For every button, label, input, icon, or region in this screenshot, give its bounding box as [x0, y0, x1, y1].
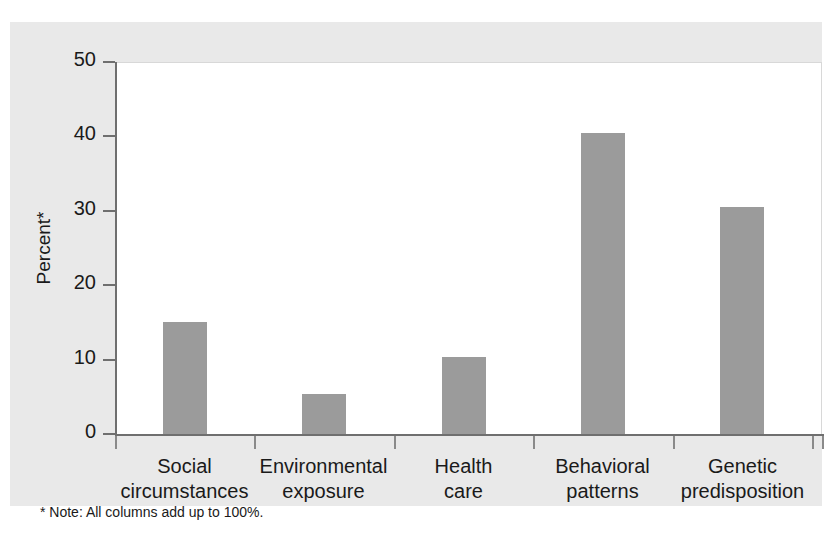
- category-label-line: Behavioral: [533, 454, 672, 479]
- x-axis-end-tick: [822, 436, 824, 449]
- x-axis-separator-tick: [812, 436, 814, 449]
- y-axis-tick-mark: [103, 433, 115, 435]
- category-label-line: exposure: [254, 479, 393, 504]
- category-label-line: predisposition: [673, 479, 812, 504]
- x-axis-category-label: Healthcare: [394, 454, 533, 504]
- category-label-line: Social: [115, 454, 254, 479]
- category-label-line: care: [394, 479, 533, 504]
- category-label-line: Health: [394, 454, 533, 479]
- x-axis-category-label: Behavioralpatterns: [533, 454, 672, 504]
- y-axis-tick-mark: [103, 284, 115, 286]
- x-axis-separator-tick: [394, 436, 396, 449]
- bar: [163, 322, 207, 434]
- y-axis-line: [115, 62, 117, 436]
- category-label-line: patterns: [533, 479, 672, 504]
- x-axis-category-label: Geneticpredisposition: [673, 454, 812, 504]
- category-label-line: Environmental: [254, 454, 393, 479]
- bar: [720, 207, 764, 434]
- x-axis-separator-tick: [673, 436, 675, 449]
- bar: [581, 133, 625, 434]
- x-axis-separator-tick: [533, 436, 535, 449]
- y-axis-tick-label: 10: [50, 346, 96, 369]
- x-axis-line: [115, 434, 824, 436]
- chart-footnote: * Note: All columns add up to 100%.: [40, 504, 263, 520]
- y-axis-tick-mark: [103, 135, 115, 137]
- y-axis-tick-label: 50: [50, 48, 96, 71]
- x-axis-separator-tick: [254, 436, 256, 449]
- bar: [442, 357, 486, 434]
- y-axis-tick-label: 0: [50, 420, 96, 443]
- y-axis-tick-label: 30: [50, 197, 96, 220]
- chart-panel: Percent* 01020304050 Socialcircumstances…: [10, 22, 822, 506]
- category-label-line: Genetic: [673, 454, 812, 479]
- bar: [302, 394, 346, 434]
- y-axis-tick-mark: [103, 359, 115, 361]
- y-axis-tick-mark: [103, 61, 115, 63]
- y-axis-tick-mark: [103, 210, 115, 212]
- x-axis-category-label: Socialcircumstances: [115, 454, 254, 504]
- bar-chart-figure: Percent* 01020304050 Socialcircumstances…: [0, 0, 837, 534]
- y-axis-tick-label: 40: [50, 122, 96, 145]
- x-axis-category-label: Environmentalexposure: [254, 454, 393, 504]
- x-axis-separator-tick: [115, 436, 117, 449]
- category-label-line: circumstances: [115, 479, 254, 504]
- y-axis-tick-label: 20: [50, 271, 96, 294]
